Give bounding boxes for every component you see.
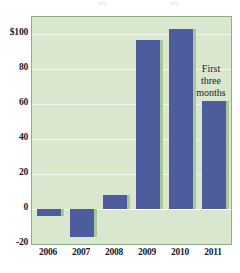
x-tick-label-2008: 2008 [97,248,131,258]
scan-artifact-right [170,2,179,5]
bar-chart: First three months $100 80 60 40 20 0 -2… [0,0,240,273]
gridline-100 [32,34,231,35]
y-tick-label-0: 0 [0,203,28,213]
y-tick-label-60: 60 [0,98,28,108]
x-axis: 2006 2007 2008 2009 2010 2011 [31,248,232,268]
bar-2009 [136,40,160,209]
x-tick-label-2011: 2011 [196,248,230,258]
annotation-line-1: First [187,63,235,75]
y-tick-label-80: 80 [0,63,28,73]
scan-artifact-left [98,2,107,5]
bar-2008 [103,195,127,209]
x-tick-label-2006: 2006 [31,248,65,258]
bar-2007 [70,209,94,237]
annotation-line-2: three [187,75,235,87]
annotation-line-3: months [187,87,235,99]
bar-2006 [37,209,61,216]
y-tick-label--20: -20 [0,238,28,248]
annotation-first-three-months: First three months [187,63,235,100]
y-tick-label-20: 20 [0,168,28,178]
y-tick-label-100: $100 [0,28,28,38]
bar-2010 [169,29,193,209]
x-tick-label-2007: 2007 [64,248,98,258]
plot-area: First three months [31,16,232,245]
x-tick-label-2009: 2009 [130,248,164,258]
bar-2011 [202,101,226,209]
y-tick-label-40: 40 [0,133,28,143]
gridline-zero [32,209,231,210]
x-tick-label-2010: 2010 [163,248,197,258]
